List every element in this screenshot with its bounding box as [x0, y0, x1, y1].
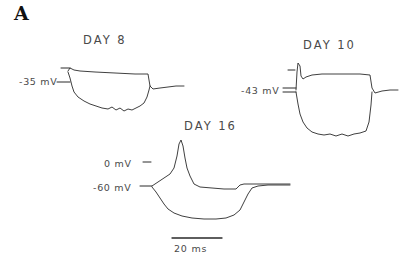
trace-day10-hyperpolarizing — [296, 92, 372, 136]
trace-day8-depolarizing — [68, 68, 184, 89]
figure-panel-a: A DAY 8 DAY 10 DAY 16 -35 mV -43 mV 0 mV… — [0, 0, 401, 270]
trace-day8-hyperpolarizing — [68, 72, 150, 111]
trace-day10-depolarizing — [296, 63, 398, 93]
recording-traces — [0, 0, 401, 270]
trace-day16-hyperpolarizing — [152, 185, 290, 219]
trace-day16-action-potential — [152, 140, 290, 189]
